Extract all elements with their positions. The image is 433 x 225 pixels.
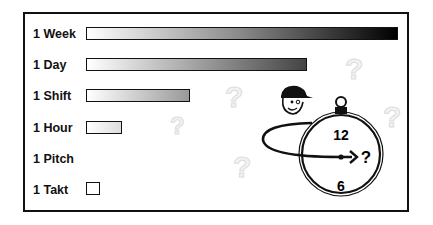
- svg-text:?: ?: [361, 148, 371, 167]
- svg-text:12: 12: [333, 127, 349, 143]
- svg-text:6: 6: [337, 178, 345, 194]
- worker-clock-illustration: 12 6 ?: [0, 0, 433, 225]
- stopwatch-icon: 12 6 ?: [299, 97, 383, 196]
- worker-face-icon: [281, 86, 313, 114]
